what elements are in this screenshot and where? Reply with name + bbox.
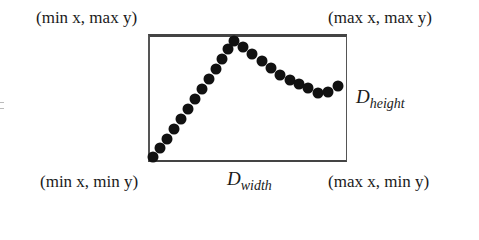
data-dot (238, 42, 249, 53)
data-dot (204, 74, 215, 85)
data-dot (183, 104, 194, 115)
data-dot (176, 114, 187, 125)
data-dot (211, 64, 222, 75)
data-dot (266, 63, 277, 74)
data-dot (275, 70, 286, 81)
data-dot (148, 152, 159, 163)
data-dot (323, 87, 334, 98)
data-dot (190, 94, 201, 105)
data-dot (313, 88, 324, 99)
data-dot (162, 134, 173, 145)
data-dot (197, 84, 208, 95)
data-dot (333, 81, 344, 92)
data-dot (217, 54, 228, 65)
data-dot (155, 143, 166, 154)
data-dot (247, 49, 258, 60)
label-d-height: Dheight (356, 86, 405, 112)
data-dot (229, 36, 240, 47)
data-dot (169, 124, 180, 135)
data-dot (303, 83, 314, 94)
label-d-width: Dwidth (227, 168, 272, 194)
data-dot (257, 56, 268, 67)
